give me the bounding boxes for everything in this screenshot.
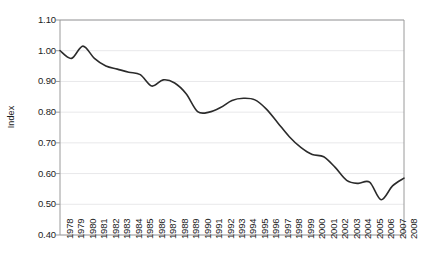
- x-tick-label: 2006: [385, 219, 396, 239]
- x-tick-label: 1999: [305, 219, 316, 239]
- x-tick-label: 2008: [408, 219, 419, 239]
- x-tick-label: 1978: [64, 219, 75, 239]
- x-tick-label: 1983: [121, 219, 132, 239]
- x-tick-label: 1989: [190, 219, 201, 239]
- x-tick-label: 1997: [282, 219, 293, 239]
- x-tick-label: 2005: [374, 219, 385, 239]
- x-tick-label: 1991: [213, 219, 224, 239]
- x-tick-label: 2001: [328, 219, 339, 239]
- x-axis-tick-labels: 1978197919801981198219831984198519861987…: [0, 0, 427, 280]
- x-tick-label: 1982: [110, 219, 121, 239]
- x-tick-label: 1980: [87, 219, 98, 239]
- x-tick-label: 1996: [270, 219, 281, 239]
- x-tick-label: 2000: [316, 219, 327, 239]
- x-tick-label: 1985: [144, 219, 155, 239]
- x-tick-label: 1979: [75, 219, 86, 239]
- line-chart: Index 1.101.000.900.800.700.600.500.40 1…: [0, 0, 427, 280]
- x-tick-label: 1995: [259, 219, 270, 239]
- x-tick-label: 1984: [133, 219, 144, 239]
- x-tick-label: 1993: [236, 219, 247, 239]
- x-tick-label: 1987: [167, 219, 178, 239]
- x-tick-label: 2003: [351, 219, 362, 239]
- x-tick-label: 1986: [156, 219, 167, 239]
- x-tick-label: 1988: [179, 219, 190, 239]
- x-tick-label: 2002: [339, 219, 350, 239]
- x-tick-label: 1981: [98, 219, 109, 239]
- x-tick-label: 2004: [362, 219, 373, 239]
- x-tick-label: 1998: [293, 219, 304, 239]
- x-tick-label: 2007: [397, 219, 408, 239]
- x-tick-label: 1990: [202, 219, 213, 239]
- x-tick-label: 1994: [247, 219, 258, 239]
- x-tick-label: 1992: [225, 219, 236, 239]
